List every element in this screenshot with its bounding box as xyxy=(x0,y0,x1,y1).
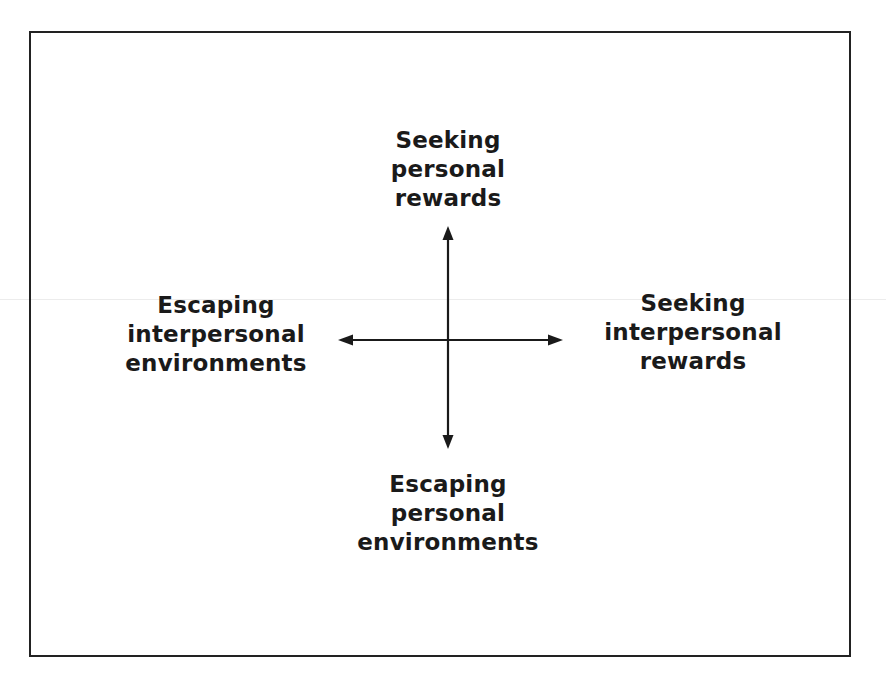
label-line: Seeking xyxy=(583,289,803,318)
label-line: Escaping xyxy=(348,470,548,499)
label-line: environments xyxy=(106,349,326,378)
label-line: Seeking xyxy=(348,126,548,155)
label-line: interpersonal xyxy=(106,320,326,349)
label-escaping-interpersonal-environments: Escaping interpersonal environments xyxy=(106,291,326,378)
label-line: interpersonal xyxy=(583,318,803,347)
label-line: rewards xyxy=(583,347,803,376)
label-line: rewards xyxy=(348,184,548,213)
label-line: environments xyxy=(348,528,548,557)
label-seeking-personal-rewards: Seeking personal rewards xyxy=(348,126,548,213)
label-line: personal xyxy=(348,155,548,184)
label-escaping-personal-environments: Escaping personal environments xyxy=(348,470,548,557)
label-seeking-interpersonal-rewards: Seeking interpersonal rewards xyxy=(583,289,803,376)
label-line: Escaping xyxy=(106,291,326,320)
label-line: personal xyxy=(348,499,548,528)
